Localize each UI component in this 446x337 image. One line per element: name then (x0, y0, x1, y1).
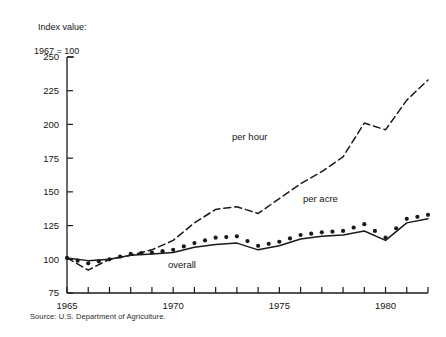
data-point (341, 229, 345, 233)
chart-figure: Index value: 1967 = 100 7510012515017520… (0, 0, 446, 337)
y-tick-label: 225 (43, 85, 59, 96)
data-point (171, 248, 175, 252)
data-point (182, 244, 186, 248)
data-point (362, 222, 366, 226)
source-note: Source: U.S. Department of Agriculture. (30, 312, 166, 321)
data-point (426, 213, 430, 217)
y-axis-tick-labels: 75100125150175200225250 (43, 51, 59, 298)
data-point (405, 217, 409, 221)
series-annotations: per hour per acre overall (168, 131, 338, 270)
y-tick-label: 175 (43, 153, 59, 164)
data-point (224, 235, 228, 239)
y-tick-label: 75 (48, 287, 59, 298)
data-point (415, 215, 419, 219)
data-point (330, 230, 334, 234)
data-point (320, 230, 324, 234)
y-tick-label: 200 (43, 119, 59, 130)
data-point (309, 232, 313, 236)
data-point (267, 242, 271, 246)
data-point (373, 229, 377, 233)
data-point (203, 238, 207, 242)
series-label-overall: overall (168, 259, 196, 270)
data-point (298, 233, 302, 237)
data-point (245, 239, 249, 243)
data-point (256, 244, 260, 248)
y-tick-label: 150 (43, 186, 59, 197)
plot-area: 75100125150175200225250 1965197019751980… (0, 0, 446, 337)
data-point (277, 240, 281, 244)
x-tick-label: 1970 (163, 300, 184, 311)
x-tick-label: 1965 (56, 300, 77, 311)
data-point (86, 261, 90, 265)
y-tick-label: 250 (43, 51, 59, 62)
data-point (214, 236, 218, 240)
x-tick-label: 1975 (269, 300, 290, 311)
data-point (235, 234, 239, 238)
y-tick-label: 125 (43, 220, 59, 231)
data-series (65, 80, 430, 270)
series-label-per-acre: per acre (303, 193, 338, 204)
data-point (288, 236, 292, 240)
y-tick-label: 100 (43, 254, 59, 265)
x-tick-label: 1980 (375, 300, 396, 311)
data-point (192, 241, 196, 245)
data-point (352, 225, 356, 229)
x-axis-ticks (67, 287, 428, 293)
series-label-per-hour: per hour (232, 131, 267, 142)
x-axis-tick-labels: 1965197019751980 (56, 300, 396, 311)
